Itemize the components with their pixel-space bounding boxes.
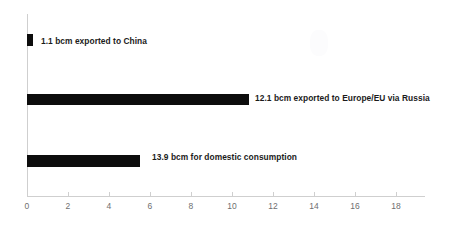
- bars-layer: 1.1 bcm exported to China12.1 bcm export…: [0, 0, 451, 226]
- bar-label: 13.9 bcm for domestic consumption: [152, 152, 297, 162]
- bar-label: 1.1 bcm exported to China: [41, 36, 147, 46]
- bar: [27, 94, 249, 105]
- bar: [27, 155, 140, 167]
- bar: [27, 34, 33, 46]
- bar-label: 12.1 bcm exported to Europe/EU via Russi…: [255, 93, 430, 103]
- horizontal-bar-chart: 024681012141618 1.1 bcm exported to Chin…: [0, 0, 451, 226]
